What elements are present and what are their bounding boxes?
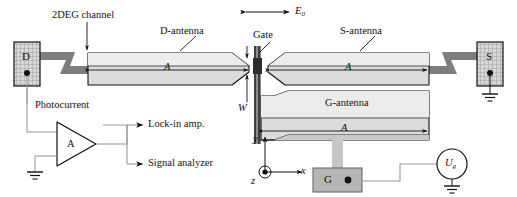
label-d-antenna: D-antenna [160,26,204,37]
label-gate-contact: G [324,174,332,185]
label-amplifier: A [67,139,75,150]
gate-voltage-source-symbol [437,149,467,193]
label-drain-contact: D [22,51,30,62]
label-gate: Gate [253,30,273,41]
label-d-antenna-length: A [164,62,170,73]
label-2deg-channel: 2DEG channel [52,10,114,21]
label-axis-y: y [253,134,258,145]
device-schematic-figure: 2DEG channel D-antenna S-antenna G-anten… [0,0,517,197]
label-source-contact: S [486,51,492,62]
label-g-antenna: G-antenna [325,98,369,109]
label-axis-z: z [251,176,255,187]
amplifier-symbol [35,122,127,166]
label-incident-field: E0 [295,6,305,18]
label-axis-x: x [301,166,306,177]
gate-bias-wire [362,164,437,181]
label-s-antenna: S-antenna [340,26,382,37]
gate-stem [332,140,343,168]
label-s-antenna-length: A [345,62,351,73]
label-gate-voltage-source: Ug [445,158,456,170]
gate-pad-shape [313,168,362,192]
label-g-antenna-length: A [341,123,347,134]
label-lock-in-amp: Lock-in amp. [148,119,205,130]
amplifier-ground-symbol [27,156,43,179]
coordinate-axes [259,137,302,178]
label-photocurrent: Photocurrent [35,100,89,111]
label-channel-width: W [238,103,247,114]
label-signal-analyzer: Signal analyzer [148,158,213,169]
